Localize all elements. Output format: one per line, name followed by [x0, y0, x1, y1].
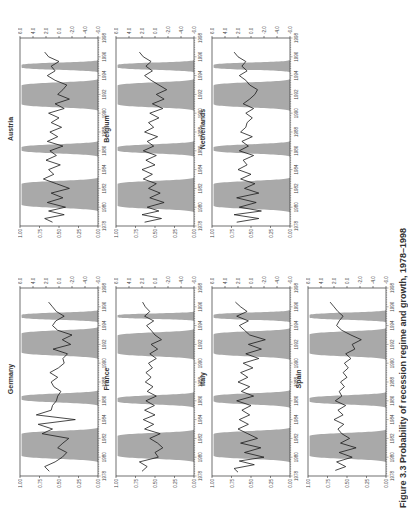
left-axis-tick: 0.25 — [173, 229, 178, 238]
right-axis-tick: 0.0 — [153, 277, 158, 284]
recession-band — [214, 328, 290, 360]
recession-band — [310, 429, 386, 462]
left-axis-tick: 0.00 — [96, 229, 101, 238]
right-axis-tick: -6.0 — [96, 276, 101, 284]
right-axis-tick: 4.0 — [223, 277, 228, 284]
left-axis-tick: 1.00 — [114, 479, 119, 488]
panel-title: Italy — [199, 264, 206, 494]
left-axis-tick: 1.00 — [210, 229, 215, 238]
right-axis-tick: 6.0 — [18, 27, 23, 34]
right-axis-tick: 4.0 — [31, 27, 36, 34]
right-axis-tick: -2.0 — [166, 276, 171, 284]
right-axis-tick: 6.0 — [114, 277, 119, 284]
x-axis-tick: 1978 — [390, 470, 395, 481]
figure-caption: Figure 3.3 Probability of recession regi… — [398, 8, 408, 508]
right-axis-tick: -4.0 — [83, 276, 88, 284]
recession-band — [118, 141, 194, 157]
panel-title: Spain — [295, 264, 302, 494]
right-axis-tick: -2.0 — [262, 276, 267, 284]
x-axis-tick: 1994 — [294, 70, 299, 81]
right-axis-tick: -4.0 — [275, 26, 280, 34]
right-axis-tick: 2.0 — [140, 27, 145, 34]
x-axis-tick: 1986 — [390, 395, 395, 406]
right-axis-tick: -4.0 — [179, 26, 184, 34]
recession-band — [22, 327, 98, 359]
x-axis-tick: 1982 — [294, 183, 299, 194]
right-axis-tick: 2.0 — [236, 27, 241, 34]
left-axis-tick: 0.50 — [249, 229, 254, 238]
recession-band — [118, 392, 194, 408]
left-axis-tick: 0.75 — [38, 479, 43, 488]
right-axis-tick: 4.0 — [319, 277, 324, 284]
right-axis-tick: -4.0 — [179, 276, 184, 284]
left-axis-tick: 0.75 — [38, 229, 43, 238]
x-axis-tick: 1998 — [390, 282, 395, 293]
panel-netherlands: Netherlands 1.000.750.500.250.006.04.02.… — [210, 14, 298, 244]
right-axis-tick: -4.0 — [275, 276, 280, 284]
right-axis-tick: 2.0 — [44, 277, 49, 284]
x-axis-tick: 1996 — [294, 51, 299, 62]
right-axis-tick: 6.0 — [210, 277, 215, 284]
left-axis-tick: 0.75 — [134, 229, 139, 238]
right-axis-tick: 0.0 — [57, 27, 62, 34]
recession-band — [22, 310, 98, 323]
left-axis-tick: 0.50 — [57, 229, 62, 238]
left-axis-tick: 0.00 — [384, 479, 389, 488]
left-axis-tick: 0.00 — [288, 479, 293, 488]
panel-france: France 1.000.750.500.250.006.04.02.00.0-… — [114, 264, 202, 494]
right-axis-tick: 4.0 — [127, 27, 132, 34]
right-axis-tick: 2.0 — [332, 277, 337, 284]
recession-band — [214, 310, 290, 323]
right-axis-tick: 2.0 — [236, 277, 241, 284]
right-axis-tick: -6.0 — [192, 276, 197, 284]
right-axis-tick: -6.0 — [96, 26, 101, 34]
recession-band — [310, 392, 386, 408]
left-axis-tick: 0.25 — [77, 229, 82, 238]
left-axis-tick: 1.00 — [114, 229, 119, 238]
panel-title: Germany — [7, 264, 14, 494]
right-axis-tick: 0.0 — [57, 277, 62, 284]
right-axis-tick: -2.0 — [166, 26, 171, 34]
right-axis-tick: 6.0 — [114, 27, 119, 34]
panel-spain: Spain 1.000.750.500.250.006.04.02.00.0-2… — [306, 264, 394, 494]
left-axis-tick: 0.00 — [96, 479, 101, 488]
left-axis-tick: 0.75 — [134, 479, 139, 488]
recession-band — [214, 141, 290, 157]
x-axis-tick: 1998 — [294, 32, 299, 43]
panel-germany: Germany 1.000.750.500.250.006.04.02.00.0… — [18, 264, 106, 494]
left-axis-tick: 0.75 — [230, 479, 235, 488]
left-axis-tick: 0.00 — [192, 479, 197, 488]
x-axis-tick: 1986 — [294, 145, 299, 156]
right-axis-tick: 4.0 — [127, 277, 132, 284]
x-axis-tick: 1988 — [390, 376, 395, 387]
right-axis-tick: 2.0 — [44, 27, 49, 34]
right-axis-tick: 4.0 — [31, 277, 36, 284]
left-axis-tick: 0.50 — [57, 479, 62, 488]
left-axis-tick: 0.00 — [192, 229, 197, 238]
chart-netherlands: 1.000.750.500.250.006.04.02.00.0-2.0-4.0… — [210, 14, 310, 244]
x-axis-tick: 1980 — [294, 202, 299, 213]
left-axis-tick: 0.50 — [249, 479, 254, 488]
recession-band — [310, 310, 386, 323]
recession-band — [22, 141, 98, 157]
recession-band — [22, 428, 98, 463]
panel-austria: Austria 1.000.750.500.250.006.04.02.00.0… — [18, 14, 106, 244]
x-axis-tick: 1992 — [294, 89, 299, 100]
recession-band — [214, 79, 290, 111]
right-axis-tick: 0.0 — [345, 277, 350, 284]
left-axis-tick: 0.25 — [77, 479, 82, 488]
left-axis-tick: 1.00 — [306, 479, 311, 488]
left-axis-tick: 0.25 — [365, 479, 370, 488]
recession-band — [22, 178, 98, 212]
x-axis-tick: 1988 — [294, 126, 299, 137]
right-axis-tick: 6.0 — [210, 27, 215, 34]
right-axis-tick: -4.0 — [83, 26, 88, 34]
left-axis-tick: 0.50 — [153, 479, 158, 488]
right-axis-tick: -2.0 — [70, 276, 75, 284]
x-axis-tick: 1992 — [390, 339, 395, 350]
left-axis-tick: 1.00 — [18, 479, 23, 488]
x-axis-tick: 1994 — [390, 320, 395, 331]
recession-band — [118, 312, 194, 321]
recession-band — [214, 60, 290, 73]
left-axis-tick: 0.50 — [153, 229, 158, 238]
